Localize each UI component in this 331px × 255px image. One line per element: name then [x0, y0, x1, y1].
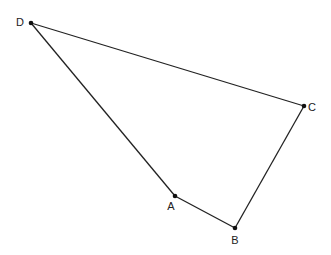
point-a	[173, 194, 178, 199]
points	[29, 21, 307, 231]
edge-dc	[31, 23, 304, 106]
edge-ad	[31, 23, 175, 196]
edges	[31, 23, 304, 228]
quadrilateral-diagram: A B C D	[0, 0, 331, 255]
point-d	[29, 21, 34, 26]
label-a: A	[167, 200, 175, 212]
label-d: D	[16, 16, 24, 28]
edge-cb	[235, 106, 304, 228]
edge-ba	[175, 196, 235, 228]
diagram-canvas: A B C D	[0, 0, 331, 255]
point-c	[302, 104, 307, 109]
point-b	[233, 226, 238, 231]
label-c: C	[308, 101, 316, 113]
labels: A B C D	[16, 16, 316, 246]
label-b: B	[231, 234, 238, 246]
